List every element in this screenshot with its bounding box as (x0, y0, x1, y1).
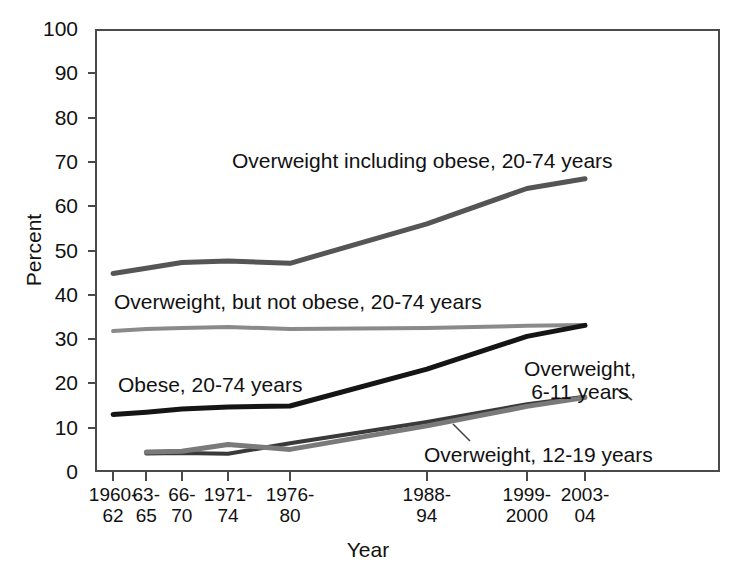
series-lines-layer (0, 0, 736, 575)
chart-root: 0102030405060708090100 1960- 6263- 6566-… (0, 0, 736, 575)
leader-line-overweight-12-19 (453, 424, 470, 441)
series-line (113, 325, 585, 331)
series-label-overweight-6-11: Overweight, 6-11 years (524, 357, 636, 403)
series-label-overweight-12-19: Overweight, 12-19 years (424, 443, 653, 466)
series-label-obese: Obese, 20-74 years (118, 373, 302, 396)
series-label-overweight-not-obese: Overweight, but not obese, 20-74 years (114, 290, 482, 313)
series-line (113, 179, 585, 274)
series-line (113, 325, 585, 414)
series-label-overweight-including-obese: Overweight including obese, 20-74 years (232, 149, 613, 172)
